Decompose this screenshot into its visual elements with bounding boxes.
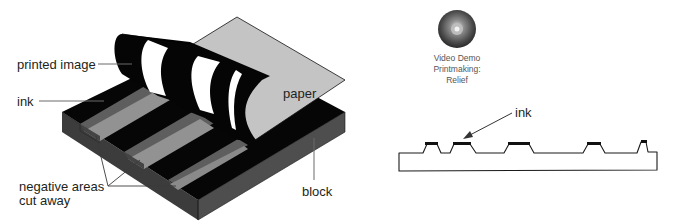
- label-block: block: [302, 184, 333, 199]
- ink-arrow: [470, 113, 512, 135]
- label-cross-section-ink: ink: [515, 105, 532, 120]
- relief-cross-section: ink: [399, 105, 657, 171]
- video-demo-line3: Relief: [446, 75, 468, 85]
- video-demo-link[interactable]: Video Demo Printmaking: Relief: [433, 10, 480, 85]
- arrowhead-icon: [463, 131, 473, 139]
- label-cut-away: cut away: [19, 193, 71, 208]
- relief-printmaking-figure: printed image ink paper negative areas c…: [0, 0, 677, 224]
- cd-disc-icon[interactable]: [438, 10, 476, 48]
- cross-section-outline: [399, 142, 657, 171]
- label-ink: ink: [17, 94, 34, 109]
- ink-layer-3: [508, 142, 530, 145]
- label-negative-areas: negative areas: [19, 179, 105, 194]
- label-printed-image: printed image: [17, 57, 96, 72]
- ink-layer-4: [587, 142, 601, 145]
- video-demo-line2: Printmaking:: [433, 64, 480, 74]
- relief-block-illustration: printed image ink paper negative areas c…: [17, 17, 345, 220]
- video-demo-line1: Video Demo: [434, 53, 481, 63]
- ink-layer-1: [425, 142, 438, 145]
- label-paper: paper: [283, 86, 317, 101]
- ink-layer-5: [641, 140, 647, 143]
- ink-layer-2: [453, 142, 471, 145]
